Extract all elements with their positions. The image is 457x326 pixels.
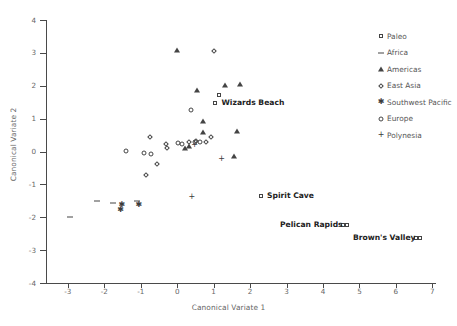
legend-item-label: Europe — [387, 114, 413, 123]
y-tick — [40, 119, 46, 120]
annotation-pelican-rapids: Pelican Rapids — [280, 220, 353, 229]
x-tick-label: 4 — [311, 288, 335, 295]
dash-icon — [376, 48, 387, 58]
x-tick-label: 7 — [420, 288, 444, 295]
diamond-icon — [376, 81, 387, 91]
y-tick — [40, 184, 46, 185]
legend-item-label: Paleo — [387, 32, 407, 41]
y-tick-label: -2 — [14, 214, 36, 221]
legend-item-east-asia[interactable]: East Asia — [376, 78, 452, 95]
x-axis-title: Canonical Variate 1 — [0, 303, 457, 312]
legend-item-label: Americas — [387, 65, 421, 74]
x-tick-label: 3 — [275, 288, 299, 295]
x-tick-label: -1 — [129, 288, 153, 295]
x-tick-label: 5 — [347, 288, 371, 295]
y-tick — [40, 152, 46, 153]
annotation-wizards-beach: Wizards Beach — [211, 98, 284, 107]
square-icon — [376, 31, 387, 41]
y-axis-line — [46, 20, 47, 284]
legend-item-africa[interactable]: Africa — [376, 45, 452, 62]
y-tick — [40, 217, 46, 218]
annotation-label: Brown's Valley — [353, 233, 416, 242]
x-tick-label: -3 — [56, 288, 80, 295]
x-tick-label: -2 — [92, 288, 116, 295]
legend-item-americas[interactable]: Americas — [376, 61, 452, 78]
annotation-brown-s-valley: Brown's Valley — [353, 233, 426, 242]
x-tick-label: 2 — [238, 288, 262, 295]
x-tick-label: 0 — [165, 288, 189, 295]
legend-item-label: Southwest Pacific — [387, 98, 452, 107]
legend-item-label: Polynesia — [387, 131, 422, 140]
legend-item-polynesia[interactable]: +Polynesia — [376, 127, 452, 144]
x-tick-label: 6 — [384, 288, 408, 295]
annotation-label: Spirit Cave — [267, 191, 314, 200]
star-icon: ✱ — [376, 97, 387, 107]
annotation-square-icon — [416, 233, 426, 242]
annotation-label: Wizards Beach — [221, 98, 284, 107]
legend-item-southwest-pacific[interactable]: ✱Southwest Pacific — [376, 94, 452, 111]
y-tick — [40, 283, 46, 284]
y-tick-label: 4 — [14, 17, 36, 24]
circle-icon — [376, 114, 387, 124]
triangle-icon — [376, 64, 387, 74]
annotation-square-icon — [211, 98, 221, 107]
legend-item-label: Africa — [387, 48, 408, 57]
legend-item-paleo[interactable]: Paleo — [376, 28, 452, 45]
y-tick-label: -3 — [14, 247, 36, 254]
annotation-spirit-cave: Spirit Cave — [257, 191, 314, 200]
annotation-square-icon — [343, 220, 353, 229]
x-tick-label: 1 — [202, 288, 226, 295]
scatter-plot: -4-3-2-101234 -3-2-101234567 ✱✱✱+++ Wiza… — [0, 0, 457, 326]
annotation-label: Pelican Rapids — [280, 220, 343, 229]
annotation-square-icon — [257, 191, 267, 200]
y-tick — [40, 53, 46, 54]
y-tick — [40, 20, 46, 21]
y-axis-title: Canonical Variate 2 — [9, 85, 18, 205]
legend-item-europe[interactable]: Europe — [376, 111, 452, 128]
y-tick — [40, 86, 46, 87]
y-tick — [40, 250, 46, 251]
y-tick-label: -4 — [14, 280, 36, 287]
legend-item-label: East Asia — [387, 81, 421, 90]
plus-icon: + — [376, 130, 387, 140]
legend: PaleoAfricaAmericasEast Asia✱Southwest P… — [376, 28, 452, 144]
y-tick-label: 3 — [14, 49, 36, 56]
